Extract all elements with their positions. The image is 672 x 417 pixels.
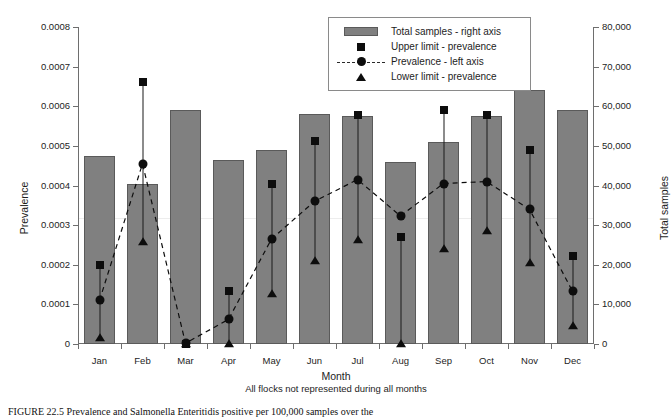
y-axis-right-tick-label: 70,000: [602, 62, 631, 72]
legend-label-upper-limit: Upper limit - prevalence: [391, 41, 497, 52]
x-axis-tick-label: Mar: [177, 356, 193, 366]
lower-limit-marker: [310, 256, 320, 264]
prevalence-marker: [439, 179, 448, 188]
y-axis-right-tick-label: 0: [602, 339, 607, 349]
legend-item-lower-limit: Lower limit - prevalence: [335, 69, 522, 84]
y-axis-left-tick-label: 0.0002: [41, 260, 70, 270]
y-axis-right-tick: [594, 225, 599, 226]
lower-limit-marker: [353, 235, 363, 243]
y-axis-right-tick-label: 30,000: [602, 220, 631, 230]
x-axis-tick: [422, 344, 423, 349]
prevalence-marker: [353, 175, 362, 184]
upper-limit-marker: [268, 180, 276, 188]
x-axis-tick-label: Jan: [92, 356, 107, 366]
lower-limit-marker: [224, 339, 234, 347]
x-axis-tick-label: Oct: [479, 356, 494, 366]
prevalence-marker: [482, 177, 491, 186]
lower-limit-marker: [482, 226, 492, 234]
x-axis-tick-label: Dec: [564, 356, 581, 366]
legend-item-total-samples: Total samples - right axis: [335, 24, 522, 39]
triangle-marker-icon: [335, 70, 387, 84]
x-axis-tick: [121, 344, 122, 349]
x-axis-tick-label: Jun: [307, 356, 322, 366]
upper-limit-marker: [569, 252, 577, 260]
x-axis-tick: [250, 344, 251, 349]
y-axis-right-tick-label: 10,000: [602, 300, 631, 310]
y-axis-right-tick-label: 80,000: [602, 22, 631, 32]
chart-legend: Total samples - right axis Upper limit -…: [328, 17, 531, 91]
y-axis-right-tick: [594, 186, 599, 187]
y-axis-title-left: Prevalence: [18, 182, 30, 235]
prevalence-marker: [525, 205, 534, 214]
lower-limit-marker: [396, 339, 406, 347]
x-axis-tick-label: May: [263, 356, 281, 366]
figure-caption: FIGURE 22.5 Prevalence and Salmonella En…: [8, 406, 664, 417]
lower-limit-marker: [267, 290, 277, 298]
legend-label-lower-limit: Lower limit - prevalence: [391, 71, 497, 82]
error-bar: [486, 115, 487, 231]
y-axis-title-right: Total samples: [658, 176, 670, 240]
square-marker-icon: [335, 40, 387, 54]
prevalence-marker: [568, 287, 577, 296]
y-axis-right-tick: [594, 27, 599, 28]
upper-limit-marker: [397, 233, 405, 241]
x-axis-tick-label: Aug: [392, 356, 409, 366]
legend-item-upper-limit: Upper limit - prevalence: [335, 39, 522, 54]
y-axis-right-tick-label: 20,000: [602, 260, 631, 270]
x-axis-tick: [207, 344, 208, 349]
x-axis-tick: [78, 344, 79, 349]
lower-limit-marker: [568, 321, 578, 329]
lower-limit-marker: [95, 333, 105, 341]
y-axis-right-tick: [594, 146, 599, 147]
x-axis-tick: [551, 344, 552, 349]
x-axis-tick: [508, 344, 509, 349]
x-axis-tick: [465, 344, 466, 349]
upper-limit-marker: [354, 111, 362, 119]
y-axis-right-tick-label: 40,000: [602, 181, 631, 191]
prevalence-marker: [310, 197, 319, 206]
lower-limit-marker: [439, 244, 449, 252]
upper-limit-marker: [139, 78, 147, 86]
dashed-line-circle-marker-icon: [335, 55, 387, 69]
lower-limit-marker: [138, 237, 148, 245]
prevalence-marker: [181, 339, 190, 348]
y-axis-left-tick-label: 0.0006: [41, 102, 70, 112]
x-axis-tick: [336, 344, 337, 349]
legend-item-prevalence: Prevalence - left axis: [335, 54, 522, 69]
legend-label-total-samples: Total samples - right axis: [391, 26, 501, 37]
bar-swatch-icon: [335, 25, 387, 39]
legend-label-prevalence: Prevalence - left axis: [391, 56, 484, 67]
y-axis-left-tick-label: 0: [65, 339, 70, 349]
prevalence-marker: [396, 212, 405, 221]
y-axis-left-tick-label: 0.0004: [41, 181, 70, 191]
x-axis-tick: [594, 344, 595, 349]
x-axis-tick: [164, 344, 165, 349]
y-axis-left-tick-label: 0.0007: [41, 62, 70, 72]
upper-limit-marker: [483, 111, 491, 119]
upper-limit-marker: [440, 106, 448, 114]
y-axis-right-tick: [594, 265, 599, 266]
x-axis-note: All flocks not represented during all mo…: [245, 383, 427, 394]
x-axis-tick-label: Sep: [435, 356, 452, 366]
x-axis-tick: [379, 344, 380, 349]
lower-limit-marker: [525, 258, 535, 266]
x-axis-tick-label: Jul: [351, 356, 363, 366]
y-axis-right-tick: [594, 304, 599, 305]
y-axis-left-tick-label: 0.0008: [41, 22, 70, 32]
y-axis-right-tick: [594, 106, 599, 107]
x-axis-tick: [293, 344, 294, 349]
x-axis-title: Month: [321, 370, 350, 382]
y-axis-right-tick: [594, 67, 599, 68]
error-bar: [400, 237, 401, 344]
upper-limit-marker: [311, 137, 319, 145]
prevalence-marker: [95, 296, 104, 305]
y-axis-right-tick-label: 50,000: [602, 141, 631, 151]
x-axis-tick-label: Nov: [521, 356, 538, 366]
upper-limit-marker: [526, 146, 534, 154]
upper-limit-marker: [225, 287, 233, 295]
y-axis-left-tick-label: 0.0005: [41, 141, 70, 151]
y-axis-left-tick-label: 0.0001: [41, 300, 70, 310]
prevalence-marker: [138, 159, 147, 168]
y-axis-left-tick-label: 0.0003: [41, 220, 70, 230]
